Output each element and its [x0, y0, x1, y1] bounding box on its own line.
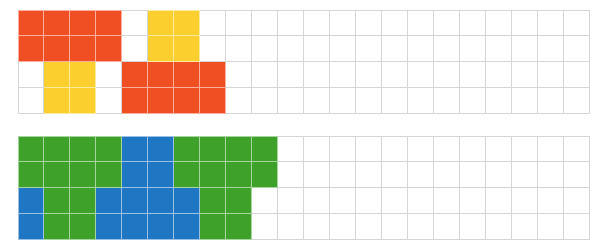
grid-cell[interactable]: [460, 162, 486, 188]
grid-cell[interactable]: [382, 36, 408, 62]
grid-cell[interactable]: [538, 188, 564, 214]
grid-cell[interactable]: [356, 136, 382, 162]
grid-cell[interactable]: [330, 214, 356, 240]
grid-cell[interactable]: [200, 10, 226, 36]
grid-cell[interactable]: [512, 162, 538, 188]
grid-cell[interactable]: [434, 36, 460, 62]
grid-cell[interactable]: [538, 62, 564, 88]
grid-cell[interactable]: [70, 62, 96, 88]
grid-cell[interactable]: [304, 188, 330, 214]
grid-cell[interactable]: [330, 188, 356, 214]
grid-cell[interactable]: [512, 10, 538, 36]
grid-cell[interactable]: [382, 136, 408, 162]
grid-cell[interactable]: [18, 10, 44, 36]
grid-cell[interactable]: [148, 136, 174, 162]
grid-cell[interactable]: [486, 136, 512, 162]
grid-cell[interactable]: [408, 88, 434, 114]
grid-cell[interactable]: [96, 88, 122, 114]
grid-cell[interactable]: [538, 10, 564, 36]
grid-cell[interactable]: [356, 88, 382, 114]
grid-cell[interactable]: [304, 36, 330, 62]
grid-cell[interactable]: [174, 10, 200, 36]
grid-cell[interactable]: [304, 162, 330, 188]
grid-cell[interactable]: [252, 214, 278, 240]
grid-cell[interactable]: [486, 62, 512, 88]
grid-cell[interactable]: [564, 88, 590, 114]
grid-cell[interactable]: [200, 88, 226, 114]
grid-cell[interactable]: [564, 214, 590, 240]
grid-cell[interactable]: [252, 188, 278, 214]
grid-cell[interactable]: [44, 214, 70, 240]
grid-cell[interactable]: [122, 136, 148, 162]
grid-cell[interactable]: [226, 10, 252, 36]
grid-cell[interactable]: [564, 36, 590, 62]
grid-cell[interactable]: [96, 36, 122, 62]
grid-cell[interactable]: [18, 88, 44, 114]
grid-cell[interactable]: [44, 10, 70, 36]
grid-cell[interactable]: [434, 10, 460, 36]
grid-cell[interactable]: [564, 136, 590, 162]
grid-cell[interactable]: [252, 36, 278, 62]
top-grid[interactable]: [18, 10, 590, 114]
grid-cell[interactable]: [226, 36, 252, 62]
grid-cell[interactable]: [148, 10, 174, 36]
grid-cell[interactable]: [278, 214, 304, 240]
grid-cell[interactable]: [252, 136, 278, 162]
grid-cell[interactable]: [512, 188, 538, 214]
grid-cell[interactable]: [330, 88, 356, 114]
grid-cell[interactable]: [200, 214, 226, 240]
grid-cell[interactable]: [434, 62, 460, 88]
grid-cell[interactable]: [278, 162, 304, 188]
grid-cell[interactable]: [278, 188, 304, 214]
grid-cell[interactable]: [174, 162, 200, 188]
grid-cell[interactable]: [226, 88, 252, 114]
grid-cell[interactable]: [408, 162, 434, 188]
grid-cell[interactable]: [44, 88, 70, 114]
grid-cell[interactable]: [226, 136, 252, 162]
grid-cell[interactable]: [564, 10, 590, 36]
grid-cell[interactable]: [278, 36, 304, 62]
grid-cell[interactable]: [382, 162, 408, 188]
grid-cell[interactable]: [200, 136, 226, 162]
grid-cell[interactable]: [122, 214, 148, 240]
grid-cell[interactable]: [538, 88, 564, 114]
grid-cell[interactable]: [226, 162, 252, 188]
grid-cell[interactable]: [330, 36, 356, 62]
grid-cell[interactable]: [304, 62, 330, 88]
grid-cell[interactable]: [512, 136, 538, 162]
grid-cell[interactable]: [96, 62, 122, 88]
grid-cell[interactable]: [174, 136, 200, 162]
grid-cell[interactable]: [70, 214, 96, 240]
grid-cell[interactable]: [96, 136, 122, 162]
grid-cell[interactable]: [174, 214, 200, 240]
grid-cell[interactable]: [200, 62, 226, 88]
grid-cell[interactable]: [122, 162, 148, 188]
grid-cell[interactable]: [174, 88, 200, 114]
grid-cell[interactable]: [356, 10, 382, 36]
grid-cell[interactable]: [148, 36, 174, 62]
grid-cell[interactable]: [460, 136, 486, 162]
grid-cell[interactable]: [408, 214, 434, 240]
grid-cell[interactable]: [304, 214, 330, 240]
grid-cell[interactable]: [200, 162, 226, 188]
grid-cell[interactable]: [304, 136, 330, 162]
grid-cell[interactable]: [564, 188, 590, 214]
grid-cell[interactable]: [70, 188, 96, 214]
grid-cell[interactable]: [278, 62, 304, 88]
grid-cell[interactable]: [460, 188, 486, 214]
grid-cell[interactable]: [226, 214, 252, 240]
grid-cell[interactable]: [18, 214, 44, 240]
grid-cell[interactable]: [122, 188, 148, 214]
grid-cell[interactable]: [304, 88, 330, 114]
grid-cell[interactable]: [96, 188, 122, 214]
grid-cell[interactable]: [252, 62, 278, 88]
grid-cell[interactable]: [356, 188, 382, 214]
grid-cell[interactable]: [408, 36, 434, 62]
grid-cell[interactable]: [434, 88, 460, 114]
grid-cell[interactable]: [330, 62, 356, 88]
grid-cell[interactable]: [252, 10, 278, 36]
grid-cell[interactable]: [434, 188, 460, 214]
grid-cell[interactable]: [304, 10, 330, 36]
grid-cell[interactable]: [96, 162, 122, 188]
grid-cell[interactable]: [148, 62, 174, 88]
